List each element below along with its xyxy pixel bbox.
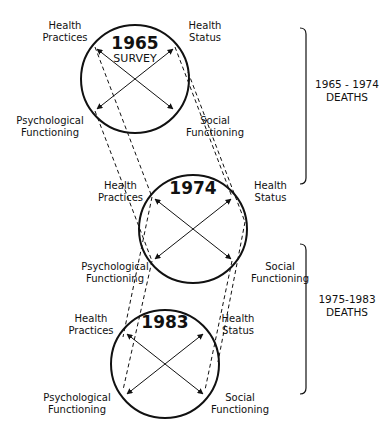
node-health-practices-1983: HealthPractices bbox=[66, 313, 116, 337]
year-1974: 1974 bbox=[168, 178, 218, 198]
diagram-canvas bbox=[0, 0, 383, 427]
year-1983: 1983 bbox=[140, 312, 190, 332]
bracket-1965-1974 bbox=[300, 28, 306, 184]
survey-label: SURVEY bbox=[105, 52, 165, 65]
node-health-status-1965: HealthStatus bbox=[180, 20, 230, 44]
bracket-label-1975-1983: 1975-1983DEATHS bbox=[312, 293, 382, 319]
node-health-status-1983: HealthStatus bbox=[218, 313, 258, 337]
node-social-functioning-1965: SocialFunctioning bbox=[180, 115, 250, 139]
bracket-label-1965-1974: 1965 - 1974DEATHS bbox=[312, 78, 382, 104]
node-psychological-functioning-1965: PsychologicalFunctioning bbox=[10, 115, 90, 139]
node-social-functioning-1983: SocialFunctioning bbox=[210, 392, 270, 416]
node-social-functioning-1974: SocialFunctioning bbox=[250, 261, 310, 285]
node-health-practices-1965: HealthPractices bbox=[35, 20, 95, 44]
year-1965: 1965 bbox=[110, 33, 160, 53]
node-health-status-1974: HealthStatus bbox=[248, 180, 293, 204]
node-psychological-functioning-1983: PsychologicalFunctioning bbox=[42, 392, 112, 416]
node-psychological-functioning-1974: PsychologicalFunctioning bbox=[75, 261, 155, 285]
node-health-practices-1974: HealthPractices bbox=[93, 180, 148, 204]
